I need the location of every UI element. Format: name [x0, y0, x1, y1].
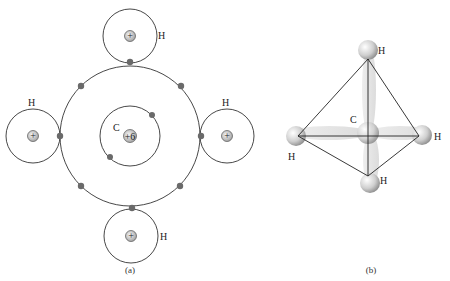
- electron-icon: [107, 154, 113, 160]
- hydrogen-label-bottom: H: [160, 231, 167, 242]
- hydrogen-atom-bottom: [360, 173, 380, 193]
- caption-a: (a): [125, 265, 135, 275]
- electron-icon: [78, 183, 84, 189]
- nucleus-charge: +: [224, 130, 230, 141]
- nucleus-charge: +: [127, 30, 133, 41]
- hydrogen-atom-right: [412, 125, 432, 145]
- electron-icon: [198, 133, 204, 139]
- electron-icon: [127, 59, 133, 65]
- hydrogen-label-top-b: H: [378, 45, 385, 56]
- hydrogen-label-left-b: H: [288, 151, 295, 162]
- electron-icon: [149, 112, 155, 118]
- electron-icon: [178, 83, 184, 89]
- nucleus-charge: +: [128, 230, 134, 241]
- electron-icon: [177, 183, 183, 189]
- electron-icon: [57, 133, 63, 139]
- hydrogen-label-right: H: [222, 97, 229, 108]
- carbon-label: C: [113, 122, 120, 133]
- tetrahedron-edges: [298, 59, 419, 176]
- electron-icon: [78, 83, 84, 89]
- carbon-label-b: C: [350, 114, 357, 125]
- caption-b: (b): [366, 265, 377, 275]
- carbon-nucleus-charge: +6: [125, 131, 136, 142]
- hydrogen-label-top: H: [158, 30, 165, 41]
- electron-icon: [129, 205, 135, 211]
- panel-b-tetrahedral-model: [286, 40, 432, 193]
- hydrogen-label-right-b: H: [434, 131, 441, 142]
- hydrogen-label-bottom-b: H: [380, 175, 387, 186]
- hydrogen-label-left: H: [28, 97, 35, 108]
- hydrogen-atom-top: [358, 40, 378, 60]
- methane-diagram: + + + + +6 H H H H C (a) H H H H: [0, 0, 450, 281]
- nucleus-charge: +: [30, 130, 36, 141]
